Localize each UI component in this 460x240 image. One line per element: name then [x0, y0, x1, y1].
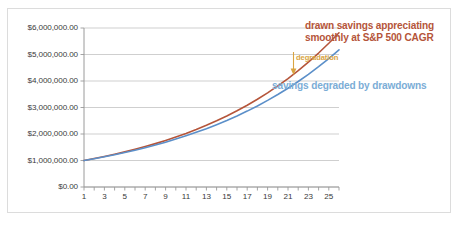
x-axis-tick-label: 23 [301, 192, 315, 201]
x-axis-tick-label: 3 [97, 192, 111, 201]
annotation-drawn-savings-line1: drawn savings appreciating [305, 20, 434, 32]
x-axis-tick-label: 1 [77, 192, 91, 201]
annotation-savings-degraded: savings degraded by drawdowns [272, 80, 426, 91]
x-axis-tick-label: 19 [261, 192, 275, 201]
y-axis-tick-label: $6,000,000.00 [4, 23, 78, 32]
series-line-drawn-savings [84, 33, 339, 161]
x-axis-tick-label: 5 [118, 192, 132, 201]
gridlines-group [81, 28, 340, 187]
x-axis-tick-label: 11 [179, 192, 193, 201]
x-axis-tick-label: 17 [240, 192, 254, 201]
x-axis-tick-label: 21 [281, 192, 295, 201]
x-axis-tick-label: 13 [199, 192, 213, 201]
y-axis-tick-label: $1,000,000.00 [4, 156, 78, 165]
annotation-drawn-savings-line2: smoothly at S&P 500 CAGR [305, 32, 434, 44]
y-axis-tick-label: $0.00 [4, 182, 78, 191]
x-axis-tick-label: 7 [138, 192, 152, 201]
x-axis-tick-label: 15 [220, 192, 234, 201]
x-axis-tick-label: 9 [159, 192, 173, 201]
series-line-savings-degraded [84, 50, 339, 161]
x-axis-ticks-group [84, 187, 339, 191]
y-axis-tick-label: $5,000,000.00 [4, 50, 78, 59]
y-axis-tick-label: $4,000,000.00 [4, 76, 78, 85]
x-axis-tick-label: 25 [322, 192, 336, 201]
annotation-drawn-savings: drawn savings appreciating smoothly at S… [305, 20, 434, 43]
y-axis-tick-label: $2,000,000.00 [4, 129, 78, 138]
annotation-degradation: degradation [296, 53, 338, 62]
y-axis-tick-label: $3,000,000.00 [4, 103, 78, 112]
